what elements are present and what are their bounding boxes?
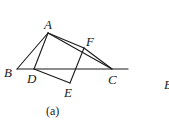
label-f: F bbox=[85, 34, 95, 49]
label-d: D bbox=[26, 71, 37, 86]
label-c: C bbox=[108, 72, 117, 87]
segment-ad bbox=[34, 33, 48, 69]
segment-de bbox=[34, 69, 70, 83]
label-e: E bbox=[63, 85, 72, 100]
segment-ba bbox=[17, 33, 48, 69]
segment-fc bbox=[84, 48, 112, 69]
label-a: A bbox=[43, 17, 52, 32]
label-b: B bbox=[4, 65, 12, 80]
geometry-figure-a: A B D E F C B (a) bbox=[0, 0, 169, 121]
figure-caption: (a) bbox=[46, 104, 59, 118]
label-partial-b: B bbox=[164, 77, 169, 92]
segment-ac bbox=[48, 33, 112, 69]
segment-ef bbox=[70, 48, 84, 83]
segment-af bbox=[48, 33, 84, 48]
